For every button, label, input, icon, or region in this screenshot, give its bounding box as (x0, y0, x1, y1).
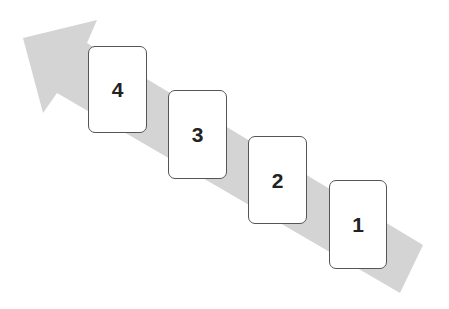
step-card-1: 1 (329, 180, 387, 269)
step-number: 1 (352, 214, 364, 235)
step-number: 2 (272, 170, 284, 191)
diagram-canvas: 4 3 2 1 (0, 0, 449, 309)
step-card-4: 4 (88, 46, 147, 133)
step-card-3: 3 (168, 90, 227, 179)
step-number: 4 (112, 79, 124, 100)
step-number: 3 (192, 124, 204, 145)
step-card-2: 2 (248, 136, 307, 224)
